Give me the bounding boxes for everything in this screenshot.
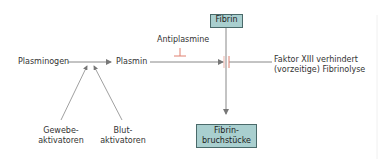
plasmin-label: Plasmin [116, 57, 147, 67]
gewebe-label: Gewebe- aktivatoren [38, 126, 84, 146]
plasminogen-label: Plasminogen [18, 57, 69, 67]
fibrin-box: Fibrin [210, 14, 243, 28]
faktor-xiii-label: Faktor XIII verhindert (vorzeitige) Fibr… [274, 55, 365, 75]
fragments-line1: Fibrin- [197, 126, 256, 136]
blut-line2: aktivatoren [100, 136, 146, 146]
arrow-blut [94, 66, 122, 120]
gewebe-line1: Gewebe- [38, 126, 84, 136]
arrow-gewebe [61, 66, 87, 120]
fibrin-fragments-box: Fibrin- bruchstücke [196, 124, 257, 148]
faktor-line2: (vorzeitige) Fibrinolyse [274, 65, 365, 75]
antiplasmine-label: Antiplasmine [157, 35, 209, 45]
fibrin-label: Fibrin [216, 15, 238, 24]
gewebe-line2: aktivatoren [38, 136, 84, 146]
blut-line1: Blut- [100, 126, 146, 136]
blut-label: Blut- aktivatoren [100, 126, 146, 146]
faktor-line1: Faktor XIII verhindert [274, 55, 365, 65]
fragments-line2: bruchstücke [197, 136, 256, 146]
